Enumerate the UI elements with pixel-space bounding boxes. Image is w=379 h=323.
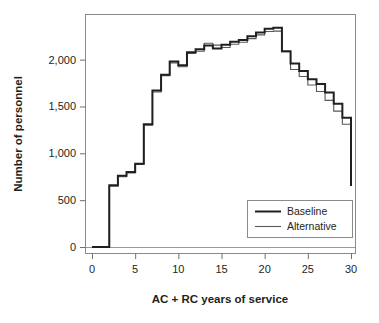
x-tick-label: 15: [215, 263, 227, 275]
y-tick-label: 0: [70, 241, 76, 253]
y-tick-label: 500: [58, 194, 76, 206]
y-axis-title: Number of personnel: [12, 76, 24, 192]
y-tick-label: 1,000: [48, 147, 76, 159]
chart-legend: Baseline Alternative: [248, 201, 353, 238]
legend-label-baseline: Baseline: [287, 205, 327, 217]
y-tick-label: 1,500: [48, 100, 76, 112]
x-tick-label: 30: [345, 263, 357, 275]
x-axis-ticks: 051015202530: [89, 254, 357, 276]
x-tick-label: 25: [302, 263, 314, 275]
chart-svg: 05001,0001,5002,000 051015202530 Number …: [0, 0, 379, 323]
x-tick-label: 5: [132, 263, 138, 275]
y-tick-label: 2,000: [48, 54, 76, 66]
y-axis-ticks: 05001,0001,5002,000: [48, 54, 85, 253]
x-tick-label: 20: [259, 263, 271, 275]
x-axis-title: AC + RC years of service: [152, 293, 288, 305]
chart-figure: 05001,0001,5002,000 051015202530 Number …: [0, 0, 379, 323]
x-tick-label: 10: [172, 263, 184, 275]
legend-label-alternative: Alternative: [287, 220, 337, 232]
x-tick-label: 0: [89, 263, 95, 275]
